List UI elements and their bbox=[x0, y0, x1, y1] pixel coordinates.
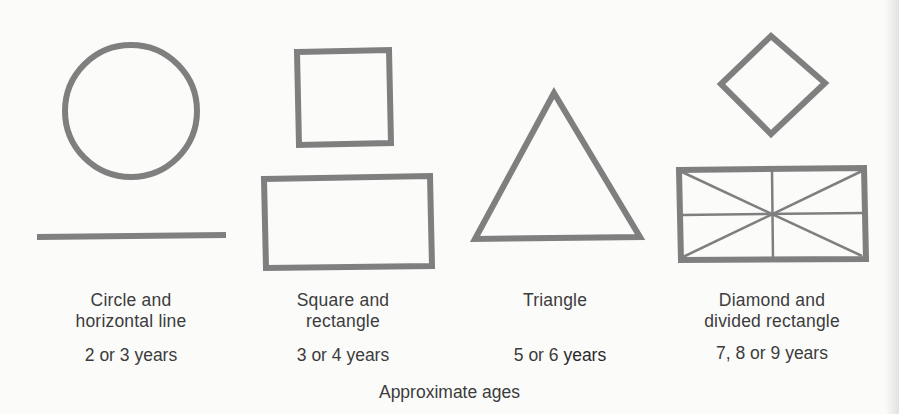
label-diamond-divided-rectangle: Diamond and divided rectangle bbox=[672, 290, 872, 332]
horizontal-line-shape bbox=[37, 235, 226, 237]
label-line: Square and bbox=[252, 290, 434, 311]
age-triangle: 5 or 6 years bbox=[470, 345, 650, 366]
label-line: Circle and bbox=[37, 290, 225, 311]
age-unit: years bbox=[563, 345, 606, 365]
age-number: 5 or 6 bbox=[514, 345, 559, 365]
label-line: Triangle bbox=[470, 290, 640, 311]
page-edge-shadow bbox=[885, 0, 899, 414]
label-circle-line: Circle and horizontal line bbox=[37, 290, 225, 332]
rectangle-shape bbox=[264, 176, 432, 268]
label-line: divided rectangle bbox=[672, 311, 872, 332]
square-shape bbox=[297, 50, 391, 145]
age-diamond-divided-rectangle: 7, 8 or 9 years bbox=[672, 343, 872, 364]
label-line: Diamond and bbox=[672, 290, 872, 311]
diamond-shape bbox=[721, 36, 825, 134]
label-square-rectangle: Square and rectangle bbox=[252, 290, 434, 332]
age-square-rectangle: 3 or 4 years bbox=[252, 345, 434, 366]
age-circle-line: 2 or 3 years bbox=[37, 345, 225, 366]
triangle-shape bbox=[475, 93, 640, 239]
label-triangle: Triangle bbox=[470, 290, 640, 311]
divided-rectangle-dividers bbox=[681, 170, 864, 259]
label-line: rectangle bbox=[252, 311, 434, 332]
figure-caption: Approximate ages bbox=[0, 382, 899, 403]
label-line: horizontal line bbox=[37, 311, 225, 332]
shape-development-figure: Circle and horizontal line 2 or 3 years … bbox=[0, 0, 899, 414]
circle-shape bbox=[65, 45, 197, 177]
